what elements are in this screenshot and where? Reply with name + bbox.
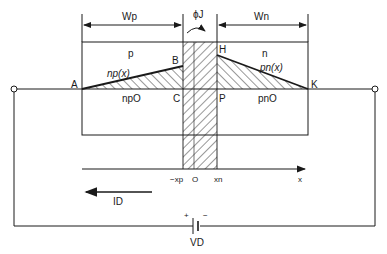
axis-neg-xp: −xp	[170, 175, 184, 184]
pn0-label: pnO	[258, 93, 277, 104]
battery-icon	[193, 218, 198, 234]
voltage-label: VD	[190, 237, 204, 248]
point-k: K	[311, 79, 318, 90]
depletion-region	[183, 42, 217, 169]
pn-curve-label: pn(x)	[259, 62, 283, 73]
point-p: P	[219, 93, 226, 104]
np-curve-label: np(x)	[107, 68, 130, 79]
point-b: B	[172, 55, 179, 66]
n-region-label: n	[262, 48, 268, 59]
pn-junction-diagram: + − VD Wp Wn ϕJ p n A B C H P K np(x) pn…	[0, 0, 387, 254]
wp-label: Wp	[122, 11, 137, 22]
wn-label: Wn	[254, 11, 269, 22]
axis-origin: O	[192, 175, 198, 184]
point-a: A	[71, 79, 78, 90]
phi-arrow	[187, 28, 205, 33]
p-region-label: p	[128, 48, 134, 59]
axis-xn: xn	[214, 175, 222, 184]
point-c: C	[173, 93, 180, 104]
battery-minus: −	[203, 211, 208, 220]
point-h: H	[219, 44, 226, 55]
np0-label: npO	[122, 93, 141, 104]
phi-label: ϕJ	[193, 9, 204, 20]
current-label: ID	[113, 196, 123, 207]
battery-plus: +	[184, 211, 189, 220]
terminal-left	[11, 86, 17, 92]
terminal-right	[372, 86, 378, 92]
axis-x: x	[298, 175, 302, 184]
